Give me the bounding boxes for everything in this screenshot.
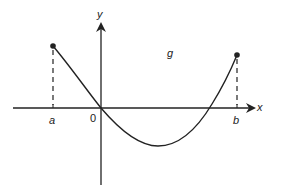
curve-g bbox=[53, 46, 237, 146]
point-a-label: a bbox=[49, 115, 55, 126]
function-label: g bbox=[167, 48, 173, 59]
y-axis-label: y bbox=[97, 9, 103, 20]
origin-label: 0 bbox=[90, 113, 96, 124]
point-b bbox=[234, 52, 240, 58]
point-a bbox=[50, 43, 56, 49]
x-axis-label: x bbox=[257, 102, 263, 113]
point-b-label: b bbox=[233, 115, 239, 126]
function-graph bbox=[0, 0, 286, 193]
